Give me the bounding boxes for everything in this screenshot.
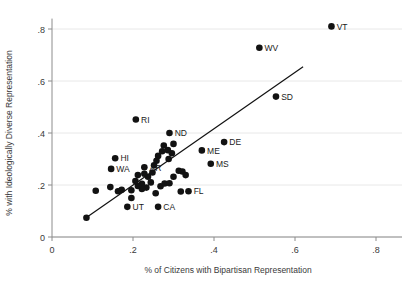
- data-point-VT: [328, 23, 335, 30]
- data-point-WA: [108, 166, 115, 173]
- data-point-UT: [124, 204, 131, 211]
- point-label-UT: UT: [133, 202, 144, 212]
- data-point: [128, 195, 135, 202]
- data-point: [159, 148, 166, 155]
- data-point: [160, 142, 167, 149]
- data-point-CA: [155, 204, 162, 211]
- y-tick-label-.8: .8: [37, 25, 45, 35]
- y-tick-label-.4: .4: [37, 129, 45, 139]
- y-axis: 0.2.4.6.8: [37, 19, 52, 243]
- x-tick-label-.4: .4: [210, 245, 218, 255]
- data-point: [132, 178, 139, 185]
- data-point-FL: [185, 188, 192, 195]
- x-axis: 0.2.4.6.8: [49, 237, 402, 255]
- data-point: [170, 173, 177, 180]
- x-tick-label-.2: .2: [129, 245, 137, 255]
- data-point: [83, 214, 90, 221]
- point-label-VT: VT: [337, 22, 348, 32]
- data-point-ND: [166, 130, 173, 137]
- data-point: [166, 180, 173, 187]
- x-tick-label-.6: .6: [291, 245, 299, 255]
- data-point: [135, 172, 142, 179]
- point-label-ND: ND: [175, 128, 187, 138]
- point-label-CA: CA: [163, 202, 175, 212]
- data-points: [83, 23, 335, 221]
- data-point: [128, 187, 135, 194]
- data-point-DE: [221, 139, 228, 146]
- data-point: [118, 186, 125, 193]
- y-axis-title: % with Ideologically Diverse Representat…: [4, 50, 14, 216]
- data-point-ME: [199, 147, 206, 154]
- point-label-ME: ME: [207, 146, 220, 156]
- data-point: [165, 156, 172, 163]
- y-tick-label-.6: .6: [37, 77, 45, 87]
- x-axis-title: % of Citizens with Bipartisan Representa…: [144, 265, 312, 275]
- point-label-SD: SD: [281, 92, 293, 102]
- x-tick-label-0: 0: [49, 245, 54, 255]
- scatter-plot-figure: 0.2.4.6.8 0.2.4.6.8 VTWVSDRINDDEMEMSHIWA…: [0, 0, 408, 286]
- gridlines: [52, 29, 402, 237]
- data-point-AR: [141, 164, 148, 171]
- data-point: [170, 141, 177, 148]
- point-label-RI: RI: [141, 115, 150, 125]
- data-point: [152, 190, 159, 197]
- data-point-HI: [112, 155, 119, 162]
- data-point: [92, 187, 99, 194]
- y-tick-label-.2: .2: [37, 181, 45, 191]
- data-point-RI: [133, 116, 140, 123]
- data-point: [177, 188, 184, 195]
- point-label-MS: MS: [216, 159, 229, 169]
- point-label-DE: DE: [229, 137, 241, 147]
- data-point: [141, 171, 148, 178]
- point-label-HI: HI: [120, 153, 129, 163]
- chart-canvas: 0.2.4.6.8 0.2.4.6.8 VTWVSDRINDDEMEMSHIWA…: [0, 0, 408, 286]
- data-point: [148, 179, 155, 186]
- data-point-MS: [207, 160, 214, 167]
- data-point: [169, 150, 176, 157]
- point-label-AR: AR: [150, 163, 162, 173]
- point-label-FL: FL: [194, 186, 204, 196]
- data-point: [107, 184, 114, 191]
- y-tick-label-0: 0: [40, 233, 45, 243]
- x-tick-label-.8: .8: [372, 245, 380, 255]
- point-label-WV: WV: [265, 43, 279, 53]
- point-label-WA: WA: [116, 164, 130, 174]
- data-point: [182, 172, 189, 179]
- data-point-SD: [273, 93, 280, 100]
- data-point-WV: [256, 44, 263, 51]
